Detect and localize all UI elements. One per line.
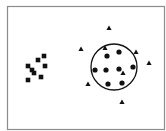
square-marker [36,58,41,63]
square-marker [43,64,48,69]
dot-marker [92,67,97,72]
triangle-marker [78,46,83,51]
square-marker [42,54,47,59]
square-marker [26,78,31,83]
dot-marker [130,64,135,69]
dot-marker [105,81,110,86]
enclosing-circle [91,44,137,90]
triangle-marker [85,81,90,86]
square-cluster [26,54,48,83]
dot-group [92,49,135,86]
dot-marker [116,49,121,54]
triangle-marker [146,60,151,65]
triangle-group [78,25,151,104]
triangle-marker [119,99,124,104]
dot-marker [103,67,108,72]
triangle-marker [133,49,138,54]
triangle-marker [120,70,125,75]
square-marker [26,64,31,69]
diagram-canvas [0,0,166,131]
square-marker [39,75,44,80]
dot-marker [119,80,124,85]
square-marker [32,71,37,76]
dot-marker [116,66,121,71]
triangle-marker [106,25,111,30]
dot-marker [104,53,109,58]
